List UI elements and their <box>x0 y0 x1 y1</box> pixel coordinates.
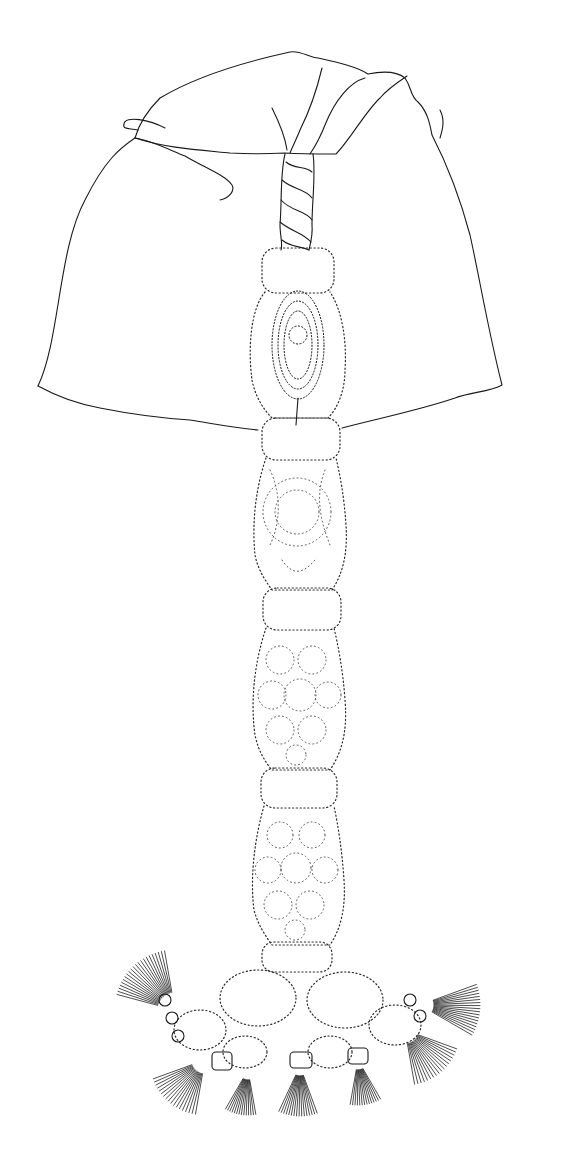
siphonophore-drawing <box>0 0 570 1175</box>
stem-segment-2 <box>254 418 346 590</box>
nectophore-bell <box>38 52 502 430</box>
stem-segment-1 <box>250 248 345 425</box>
stem-segment-3 <box>253 588 346 770</box>
twisted-stem <box>280 154 314 250</box>
tentacle-fringe <box>117 951 480 1116</box>
stem-segment-4 <box>252 768 344 972</box>
illustration-canvas <box>0 0 570 1175</box>
